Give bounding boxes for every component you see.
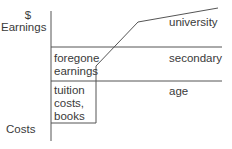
secondary-label: secondary — [169, 52, 222, 65]
costs-label: Costs — [6, 123, 35, 136]
foregone-label-line2: earnings — [54, 65, 98, 78]
tuition-label-line3: books — [54, 110, 85, 123]
foregone-label-line1: foregone — [54, 52, 99, 65]
earnings-label: Earnings — [1, 21, 46, 34]
age-label: age — [169, 85, 188, 98]
tuition-label-line2: costs, — [54, 97, 84, 110]
university-label: university — [169, 16, 218, 29]
tuition-label-line1: tuition — [54, 84, 85, 97]
